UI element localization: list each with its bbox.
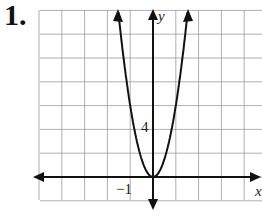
x-axis-left-arrow xyxy=(33,172,44,182)
grid-lines xyxy=(39,10,262,201)
x-tick-label: −1 xyxy=(116,181,132,198)
x-axis-label: x xyxy=(255,183,262,200)
curve-right-arrow xyxy=(183,9,193,22)
y-axis-down-arrow xyxy=(148,199,158,210)
x-axis-right-arrow xyxy=(250,172,261,182)
curve-left-arrow xyxy=(113,9,123,22)
y-axis-label: y xyxy=(158,8,165,25)
y-tick-label: 4 xyxy=(141,119,149,136)
